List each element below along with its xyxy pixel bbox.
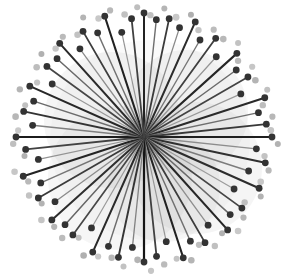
spoke-endpoint-marker <box>128 15 135 22</box>
spoke-endpoint-marker <box>29 122 36 129</box>
outer-ring-marker <box>121 11 128 18</box>
outer-ring-marker <box>34 79 40 85</box>
outer-ring-marker <box>195 27 201 33</box>
outer-ring-marker <box>26 192 32 198</box>
spoke-endpoint-marker <box>176 24 183 31</box>
spoke-endpoint-marker <box>80 28 87 35</box>
spoke-endpoint-marker <box>52 198 59 205</box>
spoke-endpoint-marker <box>30 98 37 105</box>
outer-ring-marker <box>161 6 167 12</box>
outer-ring-marker <box>38 217 45 224</box>
spoke-endpoint-marker <box>166 15 173 22</box>
spoke-endpoint-marker <box>88 225 95 232</box>
outer-ring-marker <box>11 168 18 175</box>
spoke-endpoint-marker <box>180 254 187 261</box>
spoke-endpoint-marker <box>262 159 269 166</box>
outer-ring-marker <box>264 87 270 93</box>
spoke-endpoint-marker <box>224 226 231 233</box>
outer-ring-marker <box>59 235 65 241</box>
spoke-endpoint-marker <box>192 18 199 25</box>
outer-ring-marker <box>235 58 241 64</box>
outer-ring-marker <box>108 255 114 261</box>
spoke-endpoint-marker <box>20 108 27 115</box>
outer-ring-marker <box>134 4 140 10</box>
outer-ring-marker <box>22 102 28 108</box>
outer-ring-marker <box>107 7 113 13</box>
spoke-endpoint-marker <box>269 134 276 141</box>
outer-ring-marker <box>147 12 153 18</box>
outer-ring-marker <box>95 253 101 259</box>
outer-ring-marker <box>269 114 275 120</box>
spoke-endpoint-marker <box>49 81 56 88</box>
outer-ring-marker <box>76 235 82 241</box>
outer-ring-marker <box>268 127 275 134</box>
spoke-endpoint-marker <box>256 185 263 192</box>
outer-ring-marker <box>266 167 272 173</box>
outer-ring-marker <box>161 261 167 267</box>
spoke-endpoint-marker <box>197 37 204 44</box>
outer-ring-marker <box>219 230 225 236</box>
outer-ring-marker <box>60 34 66 40</box>
outer-ring-marker <box>211 27 217 33</box>
spoke-endpoint-marker <box>233 50 240 57</box>
spoke-endpoint-marker <box>62 221 69 228</box>
spoke-endpoint-marker <box>69 231 76 238</box>
outer-ring-marker <box>38 51 44 57</box>
spoke-endpoint-marker <box>202 239 209 246</box>
spoke-endpoint-marker <box>35 195 42 202</box>
outer-ring-marker <box>174 256 180 262</box>
outer-ring-marker <box>80 15 86 21</box>
spoke-endpoint-marker <box>129 244 136 251</box>
spoke-endpoint-marker <box>118 29 125 36</box>
outer-ring-marker <box>261 153 267 159</box>
spoke-endpoint-marker <box>255 109 262 116</box>
spoke-endpoint-marker <box>94 29 101 36</box>
spoke-endpoint-marker <box>20 173 27 180</box>
outer-ring-marker <box>173 14 180 21</box>
spoke-endpoint-marker <box>163 238 170 245</box>
outer-ring-marker <box>240 214 246 220</box>
spoke-endpoint-marker <box>245 74 252 81</box>
spoke-endpoint-marker <box>245 168 252 175</box>
spoke-endpoint-marker <box>227 211 234 218</box>
spoke-endpoint-marker <box>231 186 238 193</box>
spoke-endpoint-marker <box>233 67 240 74</box>
spoke-endpoint-marker <box>153 16 160 23</box>
outer-ring-marker <box>235 228 242 235</box>
spoke-endpoint-marker <box>26 83 33 90</box>
outer-ring-marker <box>257 179 264 186</box>
outer-ring-marker <box>21 153 27 159</box>
spoke-endpoint-marker <box>263 121 270 128</box>
spoke-endpoint-marker <box>141 259 148 266</box>
outer-ring-marker <box>39 200 45 206</box>
outer-ring-marker <box>212 243 218 249</box>
outer-ring-marker <box>235 40 241 46</box>
spoke-endpoint-marker <box>105 243 112 250</box>
spoke-endpoint-marker <box>44 63 51 70</box>
outer-ring-marker <box>148 268 154 274</box>
spoke-endpoint-marker <box>56 40 63 47</box>
spoke-endpoint-marker <box>237 90 244 97</box>
spoke-endpoint-marker <box>89 249 96 256</box>
spoke-endpoint-marker <box>22 146 29 153</box>
spoke-endpoint-marker <box>48 217 55 224</box>
outer-ring-marker <box>241 199 247 205</box>
outer-ring-marker <box>10 141 16 147</box>
outer-ring-marker <box>33 64 40 71</box>
outer-ring-marker <box>121 263 127 269</box>
outer-ring-marker <box>188 12 194 18</box>
spoke-endpoint-marker <box>213 53 220 60</box>
outer-ring-marker <box>95 15 101 21</box>
spoke-endpoint-marker <box>205 222 212 229</box>
outer-ring-marker <box>17 86 23 92</box>
outer-ring-marker <box>249 64 255 70</box>
radial-burst-figure <box>0 0 292 275</box>
spoke-endpoint-marker <box>54 55 61 62</box>
outer-ring-marker <box>51 224 57 230</box>
outer-ring-marker <box>188 257 195 264</box>
spoke-endpoint-marker <box>37 180 44 187</box>
spoke-endpoint-marker <box>212 35 219 42</box>
outer-ring-marker <box>12 113 19 120</box>
spoke-endpoint-marker <box>153 253 160 260</box>
spoke-endpoint-marker <box>77 45 84 52</box>
